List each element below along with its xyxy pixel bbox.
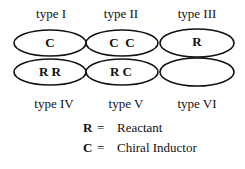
label-type-5: type V (86, 96, 166, 112)
cell-type-5: R C (81, 64, 161, 80)
label-type-6: type VI (157, 96, 237, 112)
ellipse-type-6 (160, 58, 234, 86)
cell-type-2: C C (82, 35, 162, 51)
legend-chiral-inductor: C=Chiral Inductor (83, 140, 197, 156)
legend-equals: = (97, 140, 117, 156)
legend-symbol: C (83, 140, 97, 156)
legend-symbol: R (83, 120, 97, 136)
legend-reactant: R=Reactant (83, 120, 162, 136)
cell-type-3: R (157, 34, 237, 50)
legend-meaning: Reactant (117, 120, 162, 135)
cell-type-1: C (10, 35, 90, 51)
label-type-4: type IV (14, 96, 94, 112)
legend-meaning: Chiral Inductor (117, 140, 197, 155)
legend-equals: = (97, 120, 117, 136)
cell-type-4: R R (10, 64, 90, 80)
